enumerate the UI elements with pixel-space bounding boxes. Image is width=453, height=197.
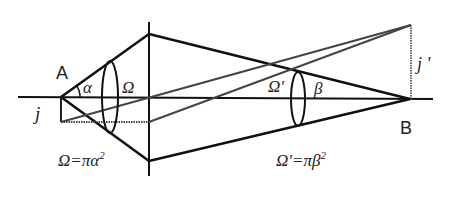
optical-axis <box>18 97 433 99</box>
label-b: B <box>400 119 412 137</box>
gray-ray-upper <box>61 25 411 122</box>
label-alpha: α <box>83 79 92 96</box>
label-omega-prime: Ω' <box>268 78 284 95</box>
label-j: j <box>35 104 40 123</box>
formula-left: Ω=πα2 <box>58 150 105 169</box>
alpha-arc <box>76 85 80 97</box>
ray-a-top <box>61 34 149 97</box>
optics-diagram: A B j j ' α β Ω Ω' Ω=πα2 Ω'=πβ2 <box>0 0 453 197</box>
formula-right: Ω'=πβ2 <box>276 150 326 169</box>
label-beta: β <box>314 80 322 97</box>
label-j-prime: j ' <box>417 55 430 73</box>
label-a: A <box>56 64 68 82</box>
label-omega: Ω <box>122 79 134 96</box>
